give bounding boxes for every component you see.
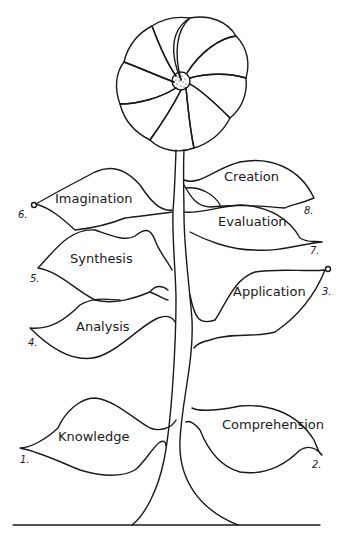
leaf-comprehension: Comprehension 2. (186, 406, 324, 473)
flower-diagram: Creation 8. Evaluation 7. Imagination 6.… (0, 0, 348, 538)
leaf-tip-curl (32, 203, 37, 208)
leaf-tip-curl (326, 267, 331, 272)
leaf-label-knowledge: Knowledge (58, 429, 129, 444)
leaf-number-3: 3. (322, 286, 332, 297)
leaf-creation: Creation 8. (184, 161, 314, 217)
leaf-label-evaluation: Evaluation (218, 214, 287, 229)
flower-head (117, 17, 248, 151)
leaf-application: Application 3. (190, 267, 332, 349)
leaf-number-5: 5. (30, 273, 40, 284)
leaf-number-1: 1. (20, 454, 30, 465)
leaf-number-6: 6. (18, 209, 28, 220)
leaf-imagination: Imagination 6. (18, 168, 172, 230)
leaf-label-analysis: Analysis (76, 319, 130, 334)
leaf-label-synthesis: Synthesis (70, 251, 133, 266)
leaf-number-2: 2. (312, 459, 322, 470)
flower-petals (117, 17, 248, 151)
leaf-label-imagination: Imagination (55, 191, 132, 206)
leaf-analysis: Analysis 4. (28, 299, 175, 358)
leaf-knowledge: Knowledge 1. (20, 398, 176, 475)
leaf-synthesis: Synthesis 5. (30, 230, 172, 302)
leaf-label-comprehension: Comprehension (222, 417, 324, 432)
flower-center (172, 72, 190, 90)
leaf-label-application: Application (233, 284, 306, 299)
leaf-number-7: 7. (310, 245, 320, 256)
leaf-number-8: 8. (304, 205, 314, 216)
leaf-number-4: 4. (28, 337, 38, 348)
leaf-evaluation: Evaluation 7. (184, 205, 322, 256)
leaf-label-creation: Creation (224, 169, 279, 184)
